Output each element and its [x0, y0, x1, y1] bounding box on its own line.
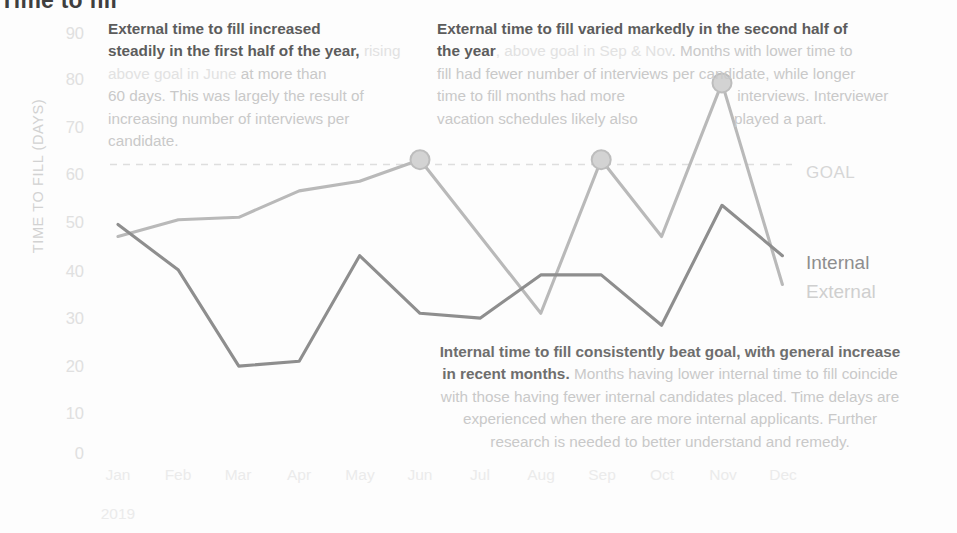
x-axis-year-label: 2019 [88, 505, 148, 523]
annotation-bold-line: External time to fill increased [108, 20, 321, 37]
annotation-bold-line: External time to fill varied markedly in… [437, 20, 848, 37]
x-axis-tick: Jul [450, 466, 510, 484]
annotation-internal-summary: Internal time to fill consistently beat … [390, 341, 950, 453]
x-axis-tick: Mar [208, 466, 268, 484]
x-axis-tick: Aug [511, 466, 571, 484]
annotation-body-text: experienced when there are more internal… [463, 410, 877, 427]
annotation-bold-line: with gene [745, 343, 816, 360]
annotation-body-text: time to fill months had more [437, 87, 625, 104]
annotation-body-text: at more than [241, 65, 327, 82]
annotation-faint-phrase: , above goal in Sep & Nov [496, 42, 672, 59]
annotation-body-text: , [736, 343, 745, 360]
annotation-external-first-half: External time to fill increased steadily… [108, 18, 428, 153]
x-axis-tick: May [330, 466, 390, 484]
annotation-body-text: candidate. [108, 132, 179, 149]
x-axis-tick: Nov [693, 466, 753, 484]
data-point-marker [411, 150, 430, 169]
annotation-bold-line: steadily in the first half of the year, [108, 42, 360, 59]
annotation-body-text: 60 days. This was largely the result of [108, 87, 364, 104]
series-label-internal: Internal [806, 252, 869, 274]
annotation-bold-line: in recent months. [442, 365, 570, 382]
annotation-body-text: research is needed to better understand … [490, 433, 849, 450]
x-axis-tick: Apr [269, 466, 329, 484]
annotation-external-second-half: External time to fill varied markedly in… [437, 18, 947, 130]
x-axis-tick: Sep [572, 466, 632, 484]
annotation-body-text: interviews. Interviewer [737, 87, 888, 104]
annotation-body-text: played a part. [734, 110, 827, 127]
annotation-body-text: Months having lower internal time to fil… [570, 365, 898, 382]
annotation-body-text: vacation schedules likely also [437, 110, 638, 127]
chart-page: Time to fill TIME TO FILL (DAYS) 90 80 7… [0, 0, 957, 533]
annotation-bold-line: the year [437, 42, 496, 59]
x-axis-tick: Dec [753, 466, 813, 484]
x-axis-tick: Jun [390, 466, 450, 484]
annotation-body-text: . Months with lower time to [671, 42, 852, 59]
x-axis-tick: Jan [88, 466, 148, 484]
x-axis-tick: Oct [632, 466, 692, 484]
annotation-body-text: increasing number of interviews per [108, 110, 349, 127]
series-label-external: External [806, 281, 876, 303]
annotation-body-text: fill had fewer number of interviews per … [437, 65, 855, 82]
goal-label: GOAL [806, 163, 855, 183]
x-axis-tick: Feb [148, 466, 208, 484]
annotation-bold-line: Internal time to fill [440, 343, 576, 360]
annotation-bold-line: ral increase [815, 343, 900, 360]
annotation-body-text: with those having fewer internal candida… [441, 388, 899, 405]
data-point-marker [592, 150, 611, 169]
annotation-bold-line: consistently beat goal [576, 343, 737, 360]
